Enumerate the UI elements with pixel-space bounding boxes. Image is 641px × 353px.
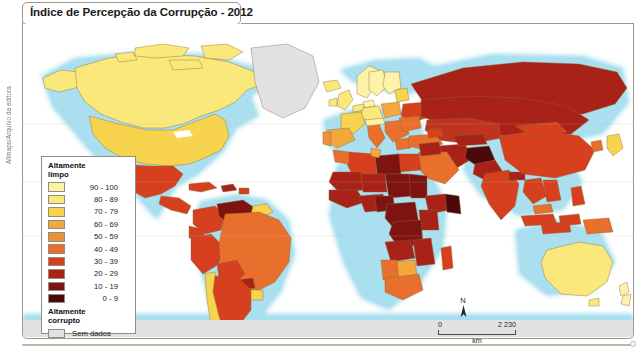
legend-label: 30 - 39	[72, 257, 118, 266]
legend-swatch	[48, 220, 65, 230]
legend-item: 50 - 59	[48, 231, 130, 243]
legend-swatch	[48, 207, 65, 217]
legend-item: 40 - 49	[48, 243, 130, 255]
legend-label: 70 - 79	[72, 207, 118, 216]
legend-bottom-label: Altamente corrupto	[48, 307, 130, 325]
legend-label: 60 - 69	[72, 220, 118, 229]
legend-item: 30 - 39	[48, 255, 130, 267]
figure-bottom-rule-knob	[630, 341, 636, 347]
legend-top-label: Altamente limpo	[48, 161, 130, 179]
figure-bottom-rule	[22, 344, 634, 346]
legend-item: 90 - 100	[48, 181, 130, 193]
legend-item: 10 - 19	[48, 280, 130, 292]
legend-swatch	[48, 282, 65, 292]
image-credit: Allmaps/Arquivo da editora	[1, 44, 15, 164]
compass-rose: N	[455, 297, 471, 318]
legend-label: 10 - 19	[72, 282, 118, 291]
legend-swatch	[48, 294, 65, 304]
legend-item: 60 - 69	[48, 218, 130, 230]
legend-label: 0 - 9	[72, 294, 118, 303]
scale-bar-line	[438, 330, 516, 335]
north-arrow-icon	[459, 305, 468, 318]
legend-label: 20 - 29	[72, 269, 118, 278]
legend-swatch	[48, 182, 65, 192]
scale-min: 0	[438, 320, 442, 329]
legend-item: 80 - 89	[48, 193, 130, 205]
legend-item: 0 - 9	[48, 293, 130, 305]
scale-max: 2 230	[498, 320, 516, 329]
legend-label: 90 - 100	[72, 183, 118, 192]
legend-swatch	[48, 244, 65, 254]
legend-swatch	[48, 257, 65, 267]
map-legend: Altamente limpo 90 - 100 80 - 89 70 - 79…	[41, 156, 136, 334]
legend-swatch	[48, 195, 65, 205]
scale-bar: 0 2 230 km	[438, 320, 516, 345]
legend-swatch-nodata	[48, 329, 65, 339]
legend-swatch	[48, 269, 65, 279]
page-title: Índice de Percepção da Corrupção - 2012	[30, 5, 240, 18]
legend-label-nodata: Sem dados	[72, 329, 111, 338]
map-figure: Allmaps/Arquivo da editora Índice de Per…	[0, 0, 641, 353]
legend-label: 80 - 89	[72, 195, 118, 204]
legend-item: 20 - 29	[48, 268, 130, 280]
legend-swatch	[48, 232, 65, 242]
legend-item-nodata: Sem dados	[48, 327, 130, 340]
compass-north-label: N	[455, 297, 471, 305]
legend-item: 70 - 79	[48, 206, 130, 218]
legend-label: 40 - 49	[72, 245, 118, 254]
legend-class-list: 90 - 100 80 - 89 70 - 79 60 - 69 50 - 59…	[48, 181, 130, 305]
scale-values: 0 2 230	[438, 320, 516, 329]
legend-label: 50 - 59	[72, 232, 118, 241]
